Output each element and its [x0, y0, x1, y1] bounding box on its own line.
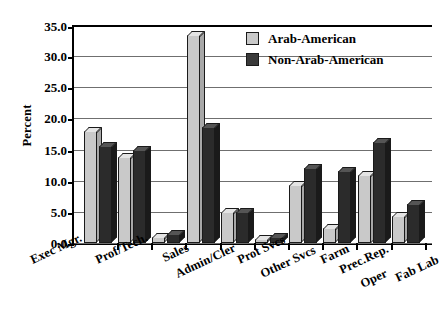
bar-group — [187, 25, 217, 243]
bar — [407, 204, 420, 243]
x-tick-mark — [288, 243, 290, 250]
y-tick-label: 20.0 — [44, 110, 67, 127]
x-tick-mark — [391, 243, 393, 250]
bar-side-face — [249, 208, 254, 242]
bar — [270, 237, 283, 243]
x-tick-mark — [185, 243, 187, 250]
y-tick-label: 15.0 — [44, 142, 67, 159]
bar — [289, 185, 302, 243]
bar — [255, 239, 268, 243]
bar-chart: Percent 0.05.010.015.020.025.030.035.0 E… — [0, 0, 445, 310]
bar — [392, 216, 405, 243]
bar-side-face — [386, 138, 391, 242]
x-axis-category-label: Oper — [358, 266, 390, 292]
y-tick-label: 25.0 — [44, 79, 67, 96]
bar — [373, 142, 386, 243]
bar — [152, 237, 165, 243]
bar-side-face — [215, 123, 220, 242]
legend-swatch-icon — [246, 32, 259, 45]
legend-label: Non-Arab-American — [268, 52, 384, 68]
legend-item: Arab-American — [246, 28, 431, 49]
y-tick-label: 35.0 — [44, 18, 67, 35]
bar-side-face — [351, 167, 356, 242]
bar — [323, 228, 336, 243]
x-axis-category-label: Admin/Cler — [173, 241, 238, 282]
chart-legend: Arab-AmericanNon-Arab-American — [246, 28, 431, 70]
y-axis-title: Percent — [20, 81, 35, 171]
bar — [221, 212, 234, 243]
legend-item: Non-Arab-American — [246, 49, 431, 70]
x-tick-mark — [117, 243, 119, 250]
x-tick-mark — [151, 243, 153, 250]
x-tick-mark — [425, 243, 427, 250]
bar — [304, 168, 317, 243]
bar-side-face — [317, 164, 322, 242]
bar-group — [84, 25, 114, 243]
bar — [338, 171, 351, 243]
y-tick-label: 0.0 — [51, 235, 67, 252]
bar-side-face — [112, 142, 117, 242]
bar — [202, 127, 215, 243]
x-tick-mark — [254, 243, 256, 250]
bar — [358, 175, 371, 244]
y-tick-label: 10.0 — [44, 173, 67, 190]
x-axis-category-label: Prec.Rep. — [337, 242, 391, 278]
y-tick-label: 5.0 — [51, 204, 67, 221]
bar — [167, 234, 180, 243]
bar — [236, 212, 249, 243]
bar-group — [152, 25, 182, 243]
y-tick-mark — [68, 244, 74, 246]
legend-swatch-icon — [246, 53, 259, 66]
bar-side-face — [146, 146, 151, 242]
bar — [133, 150, 146, 243]
x-tick-mark — [356, 243, 358, 250]
bar-group — [118, 25, 148, 243]
x-tick-mark — [220, 243, 222, 250]
bar — [99, 146, 112, 243]
bar — [118, 157, 131, 243]
bar — [187, 35, 200, 243]
bar — [84, 131, 97, 243]
x-tick-mark — [322, 243, 324, 250]
legend-label: Arab-American — [268, 31, 356, 47]
y-tick-label: 30.0 — [44, 48, 67, 65]
x-axis-category-label: Fab Lab — [393, 252, 441, 285]
bar-side-face — [420, 200, 425, 242]
